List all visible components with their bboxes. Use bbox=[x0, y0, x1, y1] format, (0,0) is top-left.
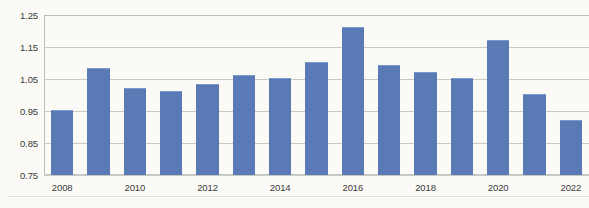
y-tick-label: 1.25 bbox=[0, 10, 38, 21]
bar-series bbox=[44, 15, 589, 175]
bar bbox=[233, 75, 256, 175]
bar-chart: 1.251.151.050.950.850.75 200820102012201… bbox=[0, 0, 589, 208]
x-tick-label: 2020 bbox=[488, 182, 509, 193]
x-tick-label: 2018 bbox=[415, 182, 436, 193]
bar bbox=[414, 72, 437, 175]
footer-divider bbox=[8, 196, 589, 197]
x-axis-labels: 20082010201220142016201820202022 bbox=[44, 176, 589, 198]
bar bbox=[487, 40, 510, 175]
y-tick-label: 1.05 bbox=[0, 74, 38, 85]
bar bbox=[523, 94, 546, 175]
bar bbox=[305, 62, 328, 175]
bar bbox=[196, 84, 219, 175]
x-tick-label: 2022 bbox=[560, 182, 581, 193]
bar bbox=[451, 78, 474, 175]
bar bbox=[342, 27, 365, 175]
bar bbox=[51, 110, 74, 175]
x-tick-label: 2010 bbox=[124, 182, 145, 193]
bar bbox=[269, 78, 292, 175]
bar bbox=[160, 91, 183, 175]
x-tick-label: 2008 bbox=[52, 182, 73, 193]
y-tick-label: 0.75 bbox=[0, 170, 38, 181]
x-tick-label: 2012 bbox=[197, 182, 218, 193]
x-tick-label: 2014 bbox=[270, 182, 291, 193]
y-tick-label: 0.95 bbox=[0, 106, 38, 117]
y-tick-label: 0.85 bbox=[0, 138, 38, 149]
bar bbox=[87, 68, 110, 175]
bar bbox=[378, 65, 401, 175]
bar bbox=[560, 120, 583, 175]
y-tick-label: 1.15 bbox=[0, 42, 38, 53]
x-tick-label: 2016 bbox=[342, 182, 363, 193]
plot-area bbox=[44, 15, 589, 175]
bar bbox=[124, 88, 147, 175]
